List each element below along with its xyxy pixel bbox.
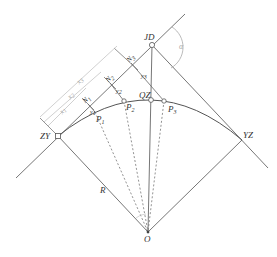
label-y2: y2: [115, 88, 122, 95]
radial-p2: [124, 101, 148, 232]
bisector-line: [148, 45, 152, 232]
label-r: R: [99, 185, 106, 195]
label-o: O: [144, 234, 151, 244]
label-zy: ZY: [40, 131, 51, 141]
label-y3: y3: [140, 73, 147, 80]
label-p1: P1: [95, 114, 105, 125]
label-n3: N3: [124, 53, 136, 65]
label-y1: y1: [89, 109, 96, 116]
jd-point: [149, 42, 154, 47]
label-jd: JD: [144, 32, 155, 42]
label-qz: QZ: [139, 90, 151, 100]
label-yz: YZ: [243, 130, 254, 140]
label-p2: P2: [125, 102, 135, 113]
curve-diagram: JD α QZ ZY YZ O R P1 P2 P3 N1 N2 N3 y1 y…: [0, 0, 277, 257]
zy-point: [56, 134, 61, 139]
radius-yz: [148, 140, 242, 232]
radius-zy: [58, 136, 148, 232]
o-point: [147, 231, 150, 234]
label-x3: x3: [74, 76, 85, 87]
radial-p1: [95, 112, 148, 232]
diagram-svg: JD α QZ ZY YZ O R P1 P2 P3 N1 N2 N3 y1 y…: [0, 0, 277, 257]
label-n1: N1: [80, 94, 92, 106]
p3-point: [162, 99, 166, 103]
label-p3: P3: [167, 104, 177, 115]
